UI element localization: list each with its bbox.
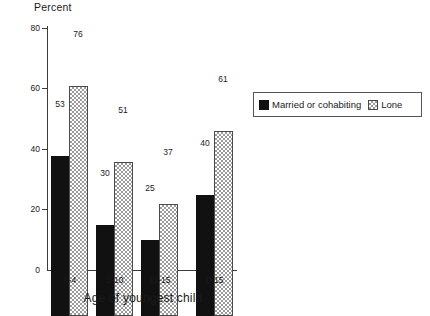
y-tick-40: 40 xyxy=(0,149,48,150)
x-axis-title: Age of youngest child xyxy=(48,291,238,305)
x-tick-label-11-15: 11-15 xyxy=(144,275,176,285)
y-tick-60: 60 xyxy=(0,88,48,89)
bar-lone-0-15 xyxy=(214,131,233,316)
bar-value-married-0-4: 53 xyxy=(49,99,71,109)
y-axis-title: Percent xyxy=(34,1,72,13)
solid-black-swatch-icon xyxy=(259,100,269,110)
x-tick-label-0-15: 0-15 xyxy=(199,275,231,285)
legend-label-married-or-cohabiting: Married or cohabiting xyxy=(272,99,361,110)
y-tick-80: 80 xyxy=(0,28,48,29)
bar-value-lone-0-4: 76 xyxy=(67,29,89,39)
bar-chart-figure: Percent 80 60 40 20 0 53 76 30 51 25 37 … xyxy=(0,0,430,316)
x-tick-label-5-10: 5-10 xyxy=(99,275,131,285)
bar-value-married-11-15: 25 xyxy=(139,183,161,193)
bar-value-married-5-10: 30 xyxy=(94,168,116,178)
bar-value-lone-0-15: 61 xyxy=(212,74,234,84)
y-tick-label-60: 60 xyxy=(31,83,40,93)
y-tick-mark-80 xyxy=(42,28,48,29)
x-tick-label-0-4: 0-4 xyxy=(54,275,86,285)
y-tick-label-40: 40 xyxy=(31,144,40,154)
legend-item-lone: Lone xyxy=(368,99,402,110)
y-tick-mark-40 xyxy=(42,149,48,150)
legend-item-married-or-cohabiting: Married or cohabiting xyxy=(259,99,361,110)
checkerboard-swatch-icon xyxy=(368,100,378,110)
y-tick-label-0: 0 xyxy=(35,265,40,275)
y-tick-0: 0 xyxy=(0,270,48,271)
y-tick-label-80: 80 xyxy=(31,23,40,33)
y-tick-mark-20 xyxy=(42,209,48,210)
chart-legend: Married or cohabiting Lone xyxy=(253,92,422,117)
y-tick-20: 20 xyxy=(0,209,48,210)
legend-label-lone: Lone xyxy=(381,99,402,110)
y-tick-label-20: 20 xyxy=(31,204,40,214)
y-tick-mark-60 xyxy=(42,88,48,89)
bar-value-lone-5-10: 51 xyxy=(112,105,134,115)
bar-value-lone-11-15: 37 xyxy=(157,147,179,157)
bar-value-married-0-15: 40 xyxy=(194,138,216,148)
